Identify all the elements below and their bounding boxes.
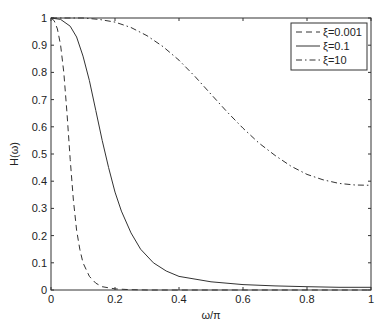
- legend-label: ξ=10: [323, 54, 347, 66]
- y-tick-label: 0.6: [32, 121, 47, 133]
- y-tick-label: 0.2: [32, 230, 47, 242]
- y-tick-label: 0.9: [32, 39, 47, 51]
- y-tick-label: 0.7: [32, 94, 47, 106]
- y-tick-label: 0: [41, 284, 47, 296]
- x-tick-label: 0.8: [299, 293, 314, 305]
- y-tick-label: 0.5: [32, 148, 47, 160]
- x-axis-label: ω/π: [201, 309, 221, 321]
- y-tick-label: 1: [41, 12, 47, 24]
- x-tick-label: 1: [368, 293, 374, 305]
- x-tick-label: 0: [48, 293, 54, 305]
- legend-label: ξ=0.1: [323, 40, 350, 52]
- legend-label: ξ=0.001: [323, 26, 362, 38]
- x-tick-label: 0.4: [171, 293, 186, 305]
- line-chart: 00.20.40.60.81 00.10.20.30.40.50.60.70.8…: [0, 0, 385, 330]
- y-tick-label: 0.4: [32, 175, 47, 187]
- y-tick-label: 0.1: [32, 257, 47, 269]
- y-axis-label: H(ω): [8, 142, 20, 166]
- x-tick-label: 0.6: [235, 293, 250, 305]
- y-tick-label: 0.3: [32, 202, 47, 214]
- legend: ξ=0.001ξ=0.1ξ=10: [291, 23, 367, 70]
- y-tick-label: 0.8: [32, 66, 47, 78]
- x-tick-label: 0.2: [107, 293, 122, 305]
